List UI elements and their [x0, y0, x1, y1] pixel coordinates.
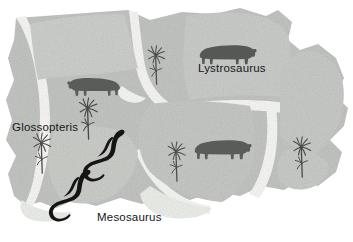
plate-northwest [30, 14, 138, 80]
label-mesosaurus: Mesosaurus [97, 212, 162, 224]
plate-east [280, 51, 344, 156]
landmass-group [6, 8, 348, 222]
label-lystrosaurus: Lystrosaurus [198, 63, 266, 75]
pangaea-fossil-map: Lystrosaurus Glossopteris Mesosaurus [0, 0, 353, 242]
label-glossopteris: Glossopteris [12, 122, 78, 134]
